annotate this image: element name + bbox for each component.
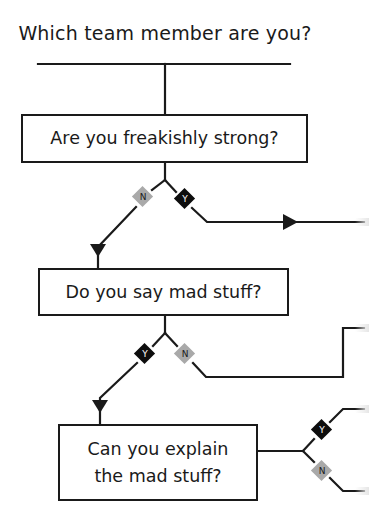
question-text: Are you freakishly strong? bbox=[50, 125, 278, 152]
yes-label: Y bbox=[182, 195, 188, 204]
arrow-right-icon bbox=[283, 214, 298, 230]
edge-fade bbox=[355, 324, 369, 332]
no-diamond-icon: N bbox=[133, 187, 153, 207]
no-label: N bbox=[319, 467, 326, 476]
no-diamond-icon: N bbox=[175, 344, 195, 364]
yes-label: Y bbox=[142, 350, 148, 359]
no-label: N bbox=[140, 193, 147, 202]
edge-fade bbox=[355, 218, 369, 226]
question-box-explain: Can you explain the mad stuff? bbox=[58, 424, 258, 501]
q1-yes-path bbox=[192, 208, 364, 222]
question-box-mad-stuff: Do you say mad stuff? bbox=[38, 268, 289, 316]
question-text-line-1: Can you explain bbox=[88, 436, 229, 463]
yes-diamond-icon: Y bbox=[312, 420, 332, 440]
no-diamond-icon: N bbox=[312, 461, 332, 481]
q1-no-path bbox=[98, 207, 136, 268]
question-text: Do you say mad stuff? bbox=[65, 279, 261, 306]
yes-label: Y bbox=[319, 426, 325, 435]
arrow-down-icon bbox=[92, 400, 108, 413]
flowchart: Which team member are you? Are you freak… bbox=[0, 0, 369, 531]
no-label: N bbox=[182, 350, 189, 359]
question-text-line-2: the mad stuff? bbox=[94, 463, 221, 490]
q2-yes-path bbox=[100, 363, 137, 424]
diagram-title: Which team member are you? bbox=[0, 22, 330, 44]
arrow-down-icon bbox=[90, 244, 106, 257]
question-box-strong: Are you freakishly strong? bbox=[21, 114, 308, 163]
q2-no-path bbox=[193, 328, 364, 377]
yes-diamond-icon: Y bbox=[175, 189, 195, 209]
yes-diamond-icon: Y bbox=[135, 344, 155, 364]
edge-fade bbox=[355, 405, 369, 413]
edge-fade bbox=[355, 487, 369, 495]
